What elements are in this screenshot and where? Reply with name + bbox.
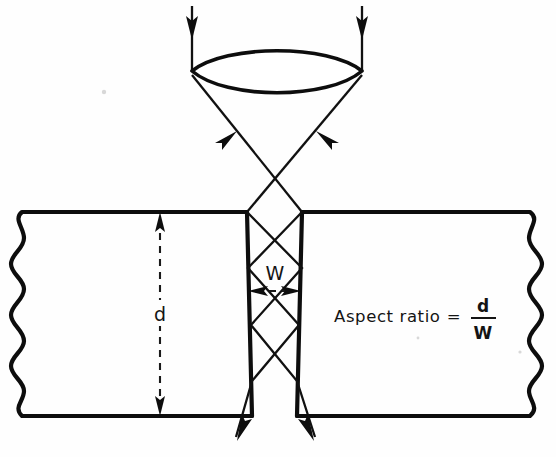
formula-denominator: W xyxy=(474,323,493,343)
aspect-ratio-diagram: d W Aspect ratio = d W xyxy=(0,0,556,457)
diagram-canvas: d W Aspect ratio = d W xyxy=(0,0,556,457)
groove-ray-left-origin xyxy=(247,212,315,437)
biconvex-lens xyxy=(192,51,362,93)
width-label: W xyxy=(266,262,285,284)
depth-arrowhead-bottom xyxy=(155,396,165,416)
formula-equals-sign: = xyxy=(447,307,461,326)
focused-ray-left xyxy=(192,75,302,212)
substrate-left-block xyxy=(11,212,252,416)
focused-arrowhead-right xyxy=(316,131,339,150)
focused-arrowhead-left xyxy=(215,131,237,150)
depth-label: d xyxy=(154,303,166,325)
depth-arrowhead-top xyxy=(155,212,165,232)
formula-label: Aspect ratio xyxy=(334,307,441,326)
formula-numerator: d xyxy=(477,296,489,316)
focused-ray-right xyxy=(247,75,362,212)
scan-speck xyxy=(417,337,420,340)
scan-speck xyxy=(518,350,521,353)
scan-speck xyxy=(102,90,106,94)
